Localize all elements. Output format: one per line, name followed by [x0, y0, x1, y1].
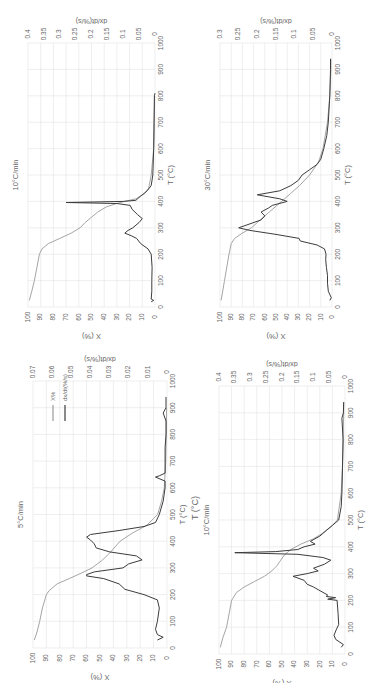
x-tick-label: 100 — [347, 621, 354, 632]
y-tick-label: 10 — [328, 660, 335, 668]
y2-tick-label: 0.3 — [246, 372, 253, 381]
y2-tick-label: 0.35 — [230, 370, 237, 383]
x-tick-label: 500 — [347, 514, 354, 525]
x-tick-label: 1000 — [347, 378, 354, 393]
y-tick-label: 20 — [316, 660, 323, 668]
x-tick-label: 700 — [347, 461, 354, 472]
chart-panel-10-bottom: 0100200300400500600700800900100001020304… — [0, 0, 375, 683]
x-tick-label: 400 — [347, 541, 354, 552]
y-tick-label: 50 — [278, 660, 285, 668]
y-tick-label: 80 — [240, 660, 247, 668]
dxdt-line — [235, 402, 344, 647]
y2-axis-label: dx/dt(%/s) — [266, 360, 298, 368]
y-tick-label: 100 — [215, 658, 222, 669]
chart-svg: 0100200300400500600700800900100001020304… — [0, 0, 375, 683]
stray-axis-label: T (°C) — [190, 496, 200, 520]
y2-tick-label: 0.2 — [278, 372, 285, 381]
x-tick-label: 900 — [347, 407, 354, 418]
y-tick-label: 60 — [265, 660, 272, 668]
y2-tick-label: 0.4 — [215, 372, 222, 381]
x-tick-label: 600 — [347, 487, 354, 498]
y2-tick-label: 0 — [341, 375, 348, 379]
y-tick-label: 40 — [290, 660, 297, 668]
x-tick-label: 200 — [347, 595, 354, 606]
x-tick-label: 800 — [347, 434, 354, 445]
y-tick-label: 0 — [341, 662, 348, 666]
y2-tick-label: 0.15 — [293, 370, 300, 383]
y2-tick-label: 0.1 — [309, 372, 316, 381]
y2-tick-label: 0.25 — [262, 370, 269, 383]
x-tick-label: 300 — [347, 568, 354, 579]
y-tick-label: 70 — [253, 660, 260, 668]
y-tick-label: 30 — [303, 660, 310, 668]
y-tick-label: 90 — [227, 660, 234, 668]
chart-title: 10°C/min — [202, 505, 211, 536]
x-tick-label: 0 — [347, 652, 354, 656]
y2-tick-label: 0.05 — [325, 370, 332, 383]
y-axis-label: X (%) — [272, 679, 291, 683]
x-axis-label: T (°C) — [356, 510, 365, 530]
